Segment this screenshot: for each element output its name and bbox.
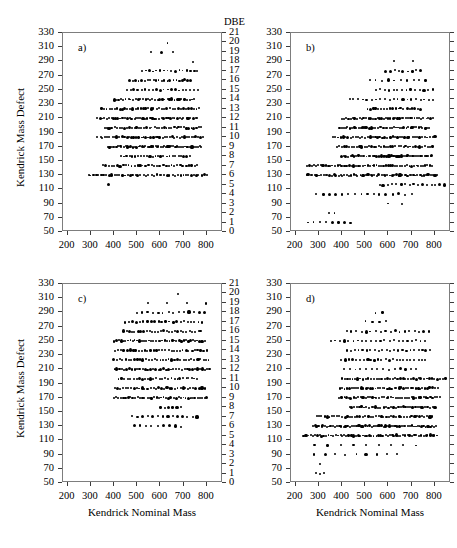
y-axis-tick-label: 50 [22,477,54,488]
dbe-axis-tick [450,60,454,61]
dbe-axis-tick [222,117,226,118]
data-point [159,89,162,92]
y-axis-tick-label: 230 [250,349,282,360]
data-point [134,397,136,399]
x-axis-tick [113,482,114,486]
data-point [420,340,422,342]
data-point [432,88,434,90]
data-point [143,397,145,399]
data-point [409,184,411,186]
data-point [377,108,379,110]
data-point [328,193,331,196]
y-axis-tick [286,117,290,118]
data-point [320,415,322,417]
y-axis-tick-label: 50 [250,226,282,237]
data-point [436,435,438,437]
data-point [169,340,171,342]
dbe-axis-tick [222,321,226,322]
data-point [153,165,155,167]
data-point [401,89,403,91]
data-point [419,89,421,91]
data-point [438,183,441,186]
y-axis-tick-label: 90 [22,448,54,459]
dbe-axis-tick-label: 8 [229,401,249,412]
data-point [413,349,415,351]
data-point [172,51,174,53]
data-point [158,349,160,351]
data-point [137,107,139,109]
data-point [143,155,145,157]
x-axis-tick-label: 400 [333,491,349,502]
data-point [386,174,388,176]
data-point [430,154,433,157]
data-point [401,397,403,399]
data-point [156,359,158,361]
y-axis-tick [58,89,62,90]
data-point [421,146,423,148]
data-point [426,137,428,139]
data-point [343,368,345,370]
data-point [383,108,385,110]
y-axis-tick-label: 330 [250,27,282,38]
data-point [145,340,147,342]
data-point [151,359,153,361]
data-point [422,117,424,119]
data-point [138,80,140,82]
data-point [147,107,149,109]
data-point [353,406,355,408]
dbe-axis-tick [450,51,454,52]
data-point [201,397,203,399]
data-point [113,165,115,167]
y-axis-tick [58,132,62,133]
data-point [396,136,398,138]
y-axis-tick-label: 170 [22,140,54,151]
y-axis-tick-label: 250 [250,335,282,346]
x-axis-tick [387,231,388,235]
y-axis-tick-label: 190 [250,126,282,137]
data-point [108,117,110,119]
data-point [375,99,377,101]
data-point [193,397,195,399]
y-axis-tick [58,117,62,118]
data-point [140,127,142,129]
data-point [183,311,185,313]
data-point [167,406,170,409]
dbe-axis-tick [450,349,454,350]
data-point [374,349,376,351]
y-axis-tick-label: 250 [250,84,282,95]
data-point [130,387,132,389]
x-axis-tick [318,482,319,486]
y-axis-tick [58,103,62,104]
data-point [131,368,133,370]
data-point [344,358,347,361]
data-point [193,108,195,110]
data-point [413,79,415,81]
data-point [421,155,423,157]
data-point [396,359,398,361]
data-point [354,193,356,195]
data-point [158,136,160,138]
data-point [190,321,192,323]
data-point [370,340,372,342]
data-point [130,359,132,361]
dbe-axis-tick [222,60,226,61]
data-point [107,183,110,186]
dbe-axis-tick [222,136,226,137]
data-point [187,377,189,379]
data-point [411,70,413,72]
dbe-axis-tick-label: 3 [229,197,249,208]
data-point [164,349,166,351]
data-point [391,107,394,110]
data-point [334,193,337,196]
data-point [426,397,428,399]
data-point [201,321,203,323]
data-point [145,70,147,72]
data-point [442,378,444,380]
dbe-axis-tick [450,311,454,312]
data-point [401,165,403,167]
data-point [348,146,350,148]
dbe-axis-tick [222,302,226,303]
data-point [421,359,423,361]
y-axis-tick-label: 210 [250,363,282,374]
data-point [406,79,408,81]
